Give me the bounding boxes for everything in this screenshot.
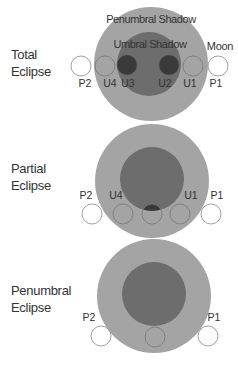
moon-p2 [71, 56, 91, 76]
moon-label: Moon [207, 40, 233, 52]
penumbral-eclipse-diagram: P2 P1 [83, 239, 221, 353]
moon-u2 [159, 55, 179, 75]
contact-label-u1: U1 [183, 77, 197, 89]
contact-label-p1: P1 [211, 189, 224, 201]
moon-p1 [198, 326, 218, 346]
contact-label-u2: U2 [158, 77, 172, 89]
moon-p2 [91, 326, 111, 346]
contact-label-u3: U3 [121, 77, 135, 89]
penumbral-shadow-label: Penumbral Shadow [106, 13, 196, 25]
moon-p1 [208, 56, 228, 76]
contact-label-p1: P1 [210, 77, 223, 89]
moon-p1 [201, 204, 221, 224]
contact-label-u4: U4 [103, 77, 117, 89]
total-eclipse-diagram: Penumbral Shadow Umbral Shadow Moon P2 U… [71, 7, 233, 121]
umbral-shadow-label: Umbral Shadow [113, 38, 187, 50]
moon-p2 [82, 204, 102, 224]
contact-label-p2: P2 [83, 311, 96, 323]
contact-label-p2: P2 [80, 189, 93, 201]
contact-label-p1: P1 [208, 311, 221, 323]
umbral-shadow-circle [122, 262, 186, 326]
contact-label-u1: U1 [184, 189, 198, 201]
umbral-shadow-circle [120, 147, 184, 211]
contact-label-u4: U4 [109, 189, 123, 201]
contact-label-p2: P2 [79, 77, 92, 89]
eclipse-diagram: Penumbral Shadow Umbral Shadow Moon P2 U… [0, 0, 238, 367]
partial-eclipse-diagram: P2 U4 U1 P1 [80, 124, 224, 238]
moon-u3 [117, 55, 137, 75]
